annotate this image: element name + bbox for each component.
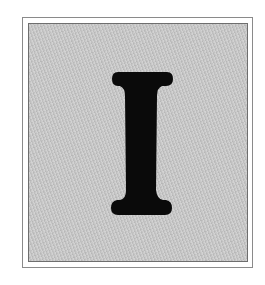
- letter-i-glyph: [0, 0, 265, 285]
